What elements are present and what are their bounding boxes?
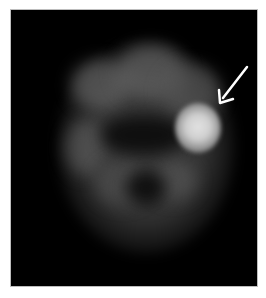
- arrow-icon: [11, 10, 258, 287]
- scan-image-frame: [10, 9, 258, 287]
